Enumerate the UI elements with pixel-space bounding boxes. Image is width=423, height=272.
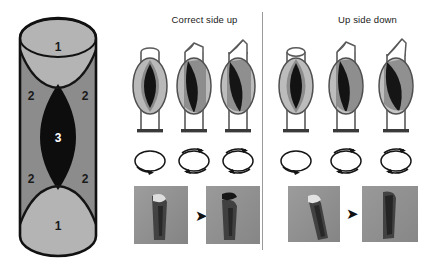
rotation-arrow-left-3 (223, 148, 253, 174)
tube-right-1 (279, 48, 313, 133)
panel-title-correct-side-up: Correct side up (152, 14, 257, 25)
tube-left-3 (221, 40, 255, 132)
panel-correct-side-up-tubes (128, 34, 260, 138)
rotation-arrow-right-2 (331, 148, 361, 174)
photo-right-before (288, 186, 340, 242)
rotation-arrow-right-1 (281, 151, 311, 175)
legend-label-1-top: 1 (55, 40, 62, 54)
legend-label-1-bottom: 1 (55, 219, 62, 233)
photo-right-after (362, 186, 418, 242)
legend-label-2-upper-right: 2 (82, 89, 89, 103)
figure-canvas: 1 2 2 3 2 2 1 Correct side up Up side do… (0, 0, 423, 272)
tube-right-3 (379, 39, 413, 132)
tube-right-2 (329, 42, 363, 132)
legend-label-2-lower-right: 2 (82, 172, 89, 186)
photo-left-after (206, 186, 260, 244)
rotation-arrow-left-1 (135, 151, 165, 175)
legend-label-3-center: 3 (55, 131, 62, 145)
rotation-arrow-right-3 (381, 148, 411, 174)
photo-transition-arrow-left: ➤ (195, 207, 208, 225)
panel-up-side-down-photos: ➤ (288, 186, 418, 246)
photo-transition-arrow-right: ➤ (346, 205, 359, 223)
tube-left-1 (133, 48, 167, 132)
panel-divider (262, 12, 263, 250)
legend-capsule: 1 2 2 3 2 2 1 (14, 14, 102, 260)
panel-correct-side-up-photos: ➤ (134, 186, 260, 246)
tube-left-2 (177, 43, 211, 132)
panel-up-side-down-rotations (272, 142, 420, 180)
legend-label-2-upper-left: 2 (28, 89, 35, 103)
photo-left-before (134, 186, 188, 244)
panel-up-side-down-tubes (272, 34, 420, 138)
rotation-arrow-left-2 (179, 148, 209, 174)
legend-label-2-lower-left: 2 (28, 172, 35, 186)
panel-title-up-side-down: Up side down (320, 14, 415, 25)
panel-correct-side-up-rotations (128, 142, 260, 180)
